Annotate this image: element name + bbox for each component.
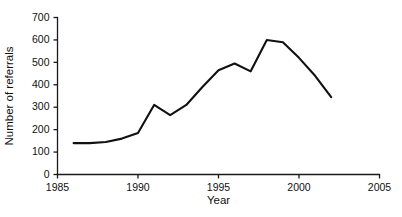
chart-figure: 0100200300400500600700 19851990199520002… — [0, 0, 402, 217]
y-tick-label: 200 — [32, 123, 50, 135]
x-axis-ticks: 19851990199520002005 — [46, 175, 392, 193]
y-tick-label: 400 — [32, 78, 50, 90]
line-chart: 0100200300400500600700 19851990199520002… — [0, 0, 402, 217]
y-tick-label: 700 — [32, 11, 50, 23]
y-tick-label: 300 — [32, 100, 50, 112]
x-axis-title: Year — [207, 194, 230, 206]
x-tick-label: 1995 — [207, 181, 231, 193]
y-tick-label: 600 — [32, 33, 50, 45]
y-axis-title: Number of referrals — [3, 46, 15, 145]
referrals-series-line — [74, 40, 332, 143]
y-tick-label: 100 — [32, 145, 50, 157]
x-tick-label: 2000 — [287, 181, 311, 193]
y-tick-label: 500 — [32, 56, 50, 68]
x-tick-label: 1990 — [126, 181, 150, 193]
x-tick-label: 1985 — [46, 181, 70, 193]
y-tick-label: 0 — [44, 168, 50, 180]
x-tick-label: 2005 — [368, 181, 392, 193]
y-axis-ticks: 0100200300400500600700 — [32, 11, 58, 180]
